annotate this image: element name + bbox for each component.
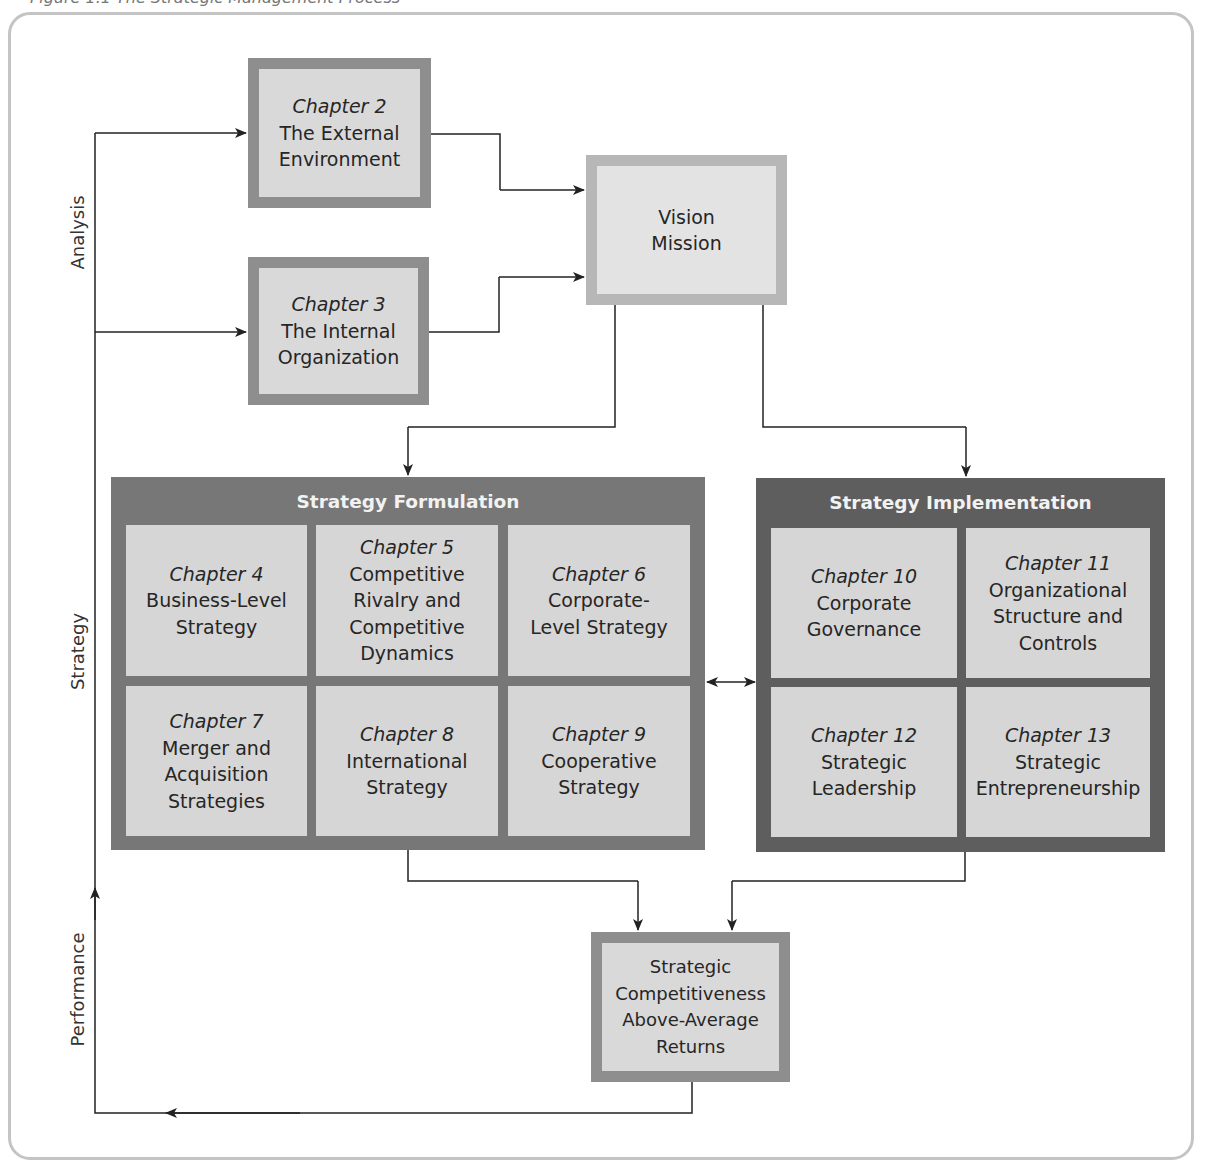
box-vision-mission: Vision Mission (586, 155, 787, 305)
cell-line: Strategy (541, 774, 656, 801)
box-external-environment: Chapter 2 The External Environment (248, 58, 431, 208)
cell-chapter-11: Chapter 11OrganizationalStructure andCon… (966, 528, 1150, 678)
chapter-label: Chapter 3 (278, 291, 399, 318)
cell-line: Entrepreneurship (976, 775, 1141, 802)
cell-line: Business-Level (146, 587, 287, 614)
outcome-line: Competitiveness (615, 981, 766, 1008)
box-title-line: Environment (279, 146, 400, 173)
cell-line: Strategy (346, 774, 467, 801)
label-strategy: Strategy (67, 612, 88, 692)
cell-chapter-5: Chapter 5CompetitiveRivalry andCompetiti… (316, 525, 498, 676)
box-title-line: The Internal (278, 318, 399, 345)
box-title-line: Organization (278, 344, 399, 371)
chapter-label: Chapter 13 (976, 722, 1141, 749)
chapter-label: Chapter 12 (811, 722, 917, 749)
outcome-line: Strategic (615, 954, 766, 981)
outcome-line: Above-Average (615, 1007, 766, 1034)
cell-line: Corporate- (530, 587, 668, 614)
cell-line: Level Strategy (530, 614, 668, 641)
cell-line: Strategy (146, 614, 287, 641)
cell-line: International (346, 748, 467, 775)
outcome-line: Returns (615, 1034, 766, 1061)
cell-line: Leadership (811, 775, 917, 802)
chapter-label: Chapter 8 (346, 721, 467, 748)
cell-line: Competitive (349, 614, 465, 641)
cell-line: Governance (807, 616, 922, 643)
mission-label: Mission (651, 230, 721, 257)
cell-line: Competitive (349, 561, 465, 588)
cell-line: Strategic (811, 749, 917, 776)
cell-chapter-6: Chapter 6Corporate-Level Strategy (508, 525, 690, 676)
cell-line: Organizational (989, 577, 1127, 604)
cell-chapter-7: Chapter 7Merger andAcquisitionStrategies (126, 686, 307, 836)
chapter-label: Chapter 10 (807, 563, 922, 590)
cell-line: Controls (989, 630, 1127, 657)
box-title-line: The External (279, 120, 400, 147)
label-analysis: Analysis (67, 193, 88, 273)
chapter-label: Chapter 5 (349, 534, 465, 561)
cell-line: Corporate (807, 590, 922, 617)
chapter-label: Chapter 4 (146, 561, 287, 588)
cell-chapter-8: Chapter 8InternationalStrategy (316, 686, 498, 836)
chapter-label: Chapter 11 (989, 550, 1127, 577)
vision-label: Vision (651, 204, 721, 231)
cell-line: Dynamics (349, 640, 465, 667)
chapter-label: Chapter 7 (162, 708, 271, 735)
implementation-title: Strategy Implementation (756, 478, 1165, 526)
cell-line: Strategic (976, 749, 1141, 776)
cell-line: Merger and (162, 735, 271, 762)
chapter-label: Chapter 2 (279, 93, 400, 120)
cell-line: Structure and (989, 603, 1127, 630)
box-strategic-competitiveness: Strategic Competitiveness Above-Average … (591, 932, 790, 1082)
cell-chapter-13: Chapter 13StrategicEntrepreneurship (966, 687, 1150, 837)
cell-chapter-10: Chapter 10CorporateGovernance (771, 528, 957, 678)
chapter-label: Chapter 6 (530, 561, 668, 588)
cell-line: Acquisition (162, 761, 271, 788)
cell-line: Strategies (162, 788, 271, 815)
label-performance: Performance (67, 937, 88, 1047)
box-internal-organization: Chapter 3 The Internal Organization (248, 257, 429, 405)
formulation-title: Strategy Formulation (111, 477, 705, 525)
chapter-label: Chapter 9 (541, 721, 656, 748)
cell-line: Cooperative (541, 748, 656, 775)
cell-chapter-12: Chapter 12StrategicLeadership (771, 687, 957, 837)
cell-chapter-4: Chapter 4Business-LevelStrategy (126, 525, 307, 676)
group-strategy-formulation: Strategy Formulation Chapter 4Business-L… (111, 477, 705, 850)
group-strategy-implementation: Strategy Implementation Chapter 10Corpor… (756, 478, 1165, 852)
cell-chapter-9: Chapter 9CooperativeStrategy (508, 686, 690, 836)
cell-line: Rivalry and (349, 587, 465, 614)
